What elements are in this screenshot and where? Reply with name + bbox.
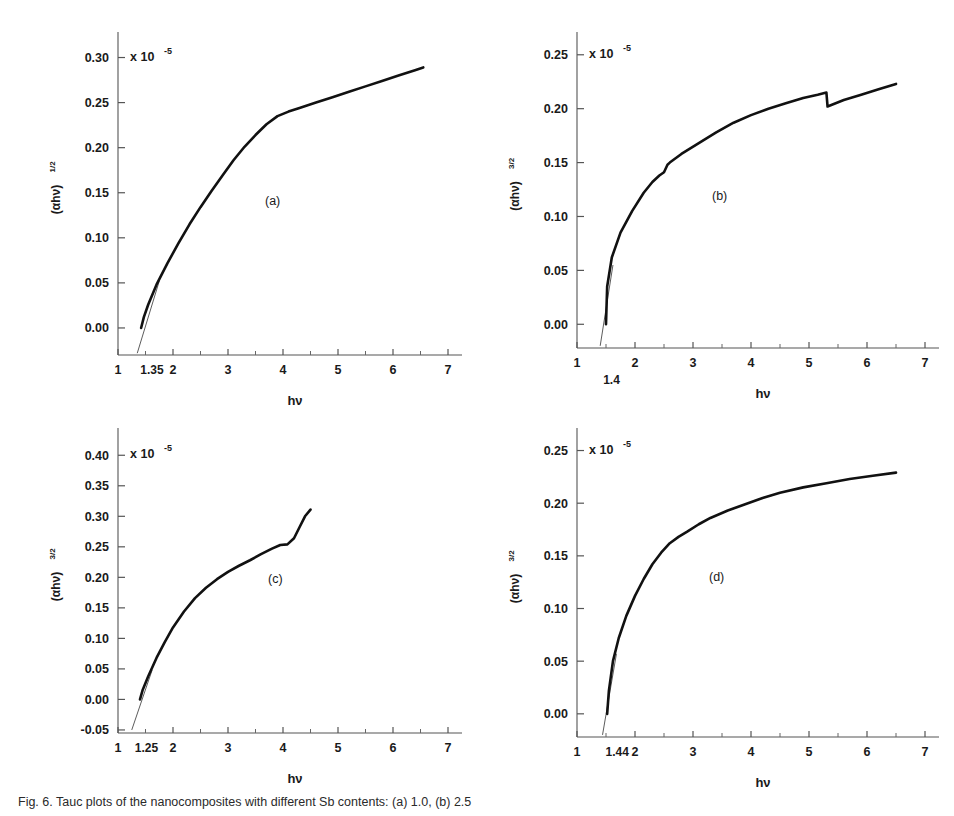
panel-letter: (c) [268, 572, 283, 586]
x-tick-label: 4 [280, 363, 287, 377]
x-tick-label: 1 [115, 363, 122, 377]
y-tick-label: 0.25 [544, 48, 568, 62]
svg-text:-5: -5 [164, 46, 172, 56]
panel-d: 12345670.000.050.100.150.200.25x 10-51.4… [477, 415, 954, 790]
x-tick-label: 3 [690, 356, 697, 370]
y-tick-label: 0.00 [85, 693, 109, 707]
svg-text:x 10: x 10 [130, 50, 154, 64]
x-tick-label: 7 [445, 741, 452, 755]
y-tick-label: 0.25 [85, 540, 109, 554]
intercept-label: 1.35 [140, 363, 164, 377]
extrapolation-line [132, 670, 152, 730]
x-tick-label: 2 [170, 363, 177, 377]
y-tick-label: 0.25 [85, 96, 109, 110]
svg-text:1/2: 1/2 [48, 161, 57, 173]
figure-caption: Fig. 6. Tauc plots of the nanocomposites… [18, 795, 938, 810]
x-tick-label: 6 [390, 363, 397, 377]
x-tick-label: 3 [690, 745, 697, 759]
svg-text:x 10: x 10 [130, 447, 154, 461]
x-tick-label: 5 [335, 741, 342, 755]
y-tick-label: 0.00 [85, 321, 109, 335]
intercept-label: 1.25 [135, 741, 159, 755]
y-tick-label: 0.10 [85, 231, 109, 245]
x-axis-title: hν [287, 393, 302, 408]
svg-text:3/2: 3/2 [48, 548, 57, 560]
x-tick-label: 1 [574, 356, 581, 370]
svg-text:x 10: x 10 [589, 443, 613, 457]
axis-multiplier: x 10-5 [130, 443, 172, 461]
x-tick-label: 2 [632, 356, 639, 370]
x-tick-label: 3 [225, 741, 232, 755]
intercept-label: 1.44 [606, 745, 630, 759]
y-tick-label: 0.15 [85, 186, 109, 200]
y-tick-label: 0.20 [85, 571, 109, 585]
x-tick-label: 5 [806, 356, 813, 370]
panel-letter: (d) [709, 570, 724, 584]
y-tick-label: 0.00 [544, 318, 568, 332]
y-tick-label: 0.20 [544, 497, 568, 511]
panel-d-chart: 12345670.000.050.100.150.200.25x 10-51.4… [477, 415, 954, 790]
axis-multiplier: x 10-5 [130, 46, 172, 64]
y-tick-label: 0.30 [85, 51, 109, 65]
y-tick-label: 0.15 [85, 601, 109, 615]
x-tick-label: 7 [922, 356, 929, 370]
data-curve [140, 510, 311, 700]
x-tick-label: 6 [390, 741, 397, 755]
x-tick-label: 5 [806, 745, 813, 759]
x-tick-label: 4 [280, 741, 287, 755]
x-tick-label: 2 [170, 741, 177, 755]
y-tick-label: 0.40 [85, 449, 109, 463]
svg-text:3/2: 3/2 [507, 550, 516, 562]
y-axis-title: (αhν)1/2 [48, 161, 63, 214]
x-tick-label: 4 [748, 356, 755, 370]
panel-c-chart: 1234567-0.050.000.050.100.150.200.250.30… [0, 415, 477, 790]
svg-text:-5: -5 [164, 443, 172, 453]
y-tick-label: 0.15 [544, 156, 568, 170]
panel-b-chart: 12345670.000.050.100.150.200.25x 10-51.4… [477, 0, 954, 415]
y-tick-label: 0.35 [85, 479, 109, 493]
y-axis-title: (αhν)3/2 [507, 550, 522, 603]
y-tick-label: 0.05 [85, 662, 109, 676]
y-tick-label: 0.10 [85, 632, 109, 646]
svg-text:(αhν): (αhν) [508, 181, 522, 210]
svg-text:-5: -5 [623, 439, 631, 449]
panel-a-chart: 12345670.000.050.100.150.200.250.30x 10-… [0, 0, 477, 415]
panel-c: 1234567-0.050.000.050.100.150.200.250.30… [0, 415, 477, 790]
x-tick-label: 6 [864, 745, 871, 759]
x-axis-title: hν [755, 386, 770, 401]
y-tick-label: 0.25 [544, 444, 568, 458]
y-tick-label: 0.10 [544, 210, 568, 224]
axis-multiplier: x 10-5 [589, 43, 631, 61]
y-tick-label: 0.05 [544, 655, 568, 669]
data-curve [141, 67, 423, 328]
svg-text:(αhν): (αhν) [49, 572, 63, 601]
svg-text:3/2: 3/2 [507, 157, 516, 169]
panel-a: 12345670.000.050.100.150.200.250.30x 10-… [0, 0, 477, 415]
y-tick-label: 0.30 [85, 510, 109, 524]
intercept-label: 1.4 [603, 373, 620, 387]
x-tick-label: 2 [632, 745, 639, 759]
y-tick-label: 0.05 [544, 264, 568, 278]
panel-letter: (b) [712, 189, 727, 203]
x-tick-label: 1 [574, 745, 581, 759]
data-curve [606, 84, 896, 324]
extrapolation-line [137, 281, 159, 353]
y-tick-label: 0.15 [544, 549, 568, 563]
x-tick-label: 4 [748, 745, 755, 759]
y-tick-label: 0.05 [85, 276, 109, 290]
y-tick-label: 0.00 [544, 707, 568, 721]
svg-text:(αhν): (αhν) [49, 185, 63, 214]
x-tick-label: 5 [335, 363, 342, 377]
svg-text:(αhν): (αhν) [508, 574, 522, 603]
x-tick-label: 1 [115, 741, 122, 755]
x-tick-label: 6 [864, 356, 871, 370]
svg-text:-5: -5 [623, 43, 631, 53]
y-tick-label: 0.20 [85, 141, 109, 155]
tauc-plot-figure: 12345670.000.050.100.150.200.250.30x 10-… [0, 0, 954, 816]
axis-multiplier: x 10-5 [589, 439, 631, 457]
svg-text:x 10: x 10 [589, 47, 613, 61]
x-axis-title: hν [755, 775, 770, 790]
y-tick-label: 0.10 [544, 602, 568, 616]
panel-letter: (a) [265, 194, 280, 208]
x-tick-label: 3 [225, 363, 232, 377]
